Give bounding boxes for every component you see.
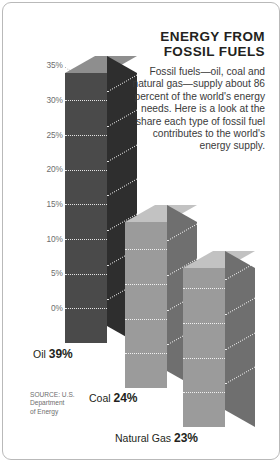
source-line-2: Department xyxy=(30,399,64,406)
bar-gridline xyxy=(65,204,107,205)
caption-value: 39% xyxy=(49,347,73,361)
caption-value: 24% xyxy=(114,391,138,405)
source-line-3: of Energy xyxy=(30,408,58,415)
caption-label: Oil xyxy=(33,348,49,360)
bar-gridline xyxy=(125,249,167,250)
bar-front-face xyxy=(65,73,107,343)
bar-gridline xyxy=(183,323,225,324)
bar-front-face xyxy=(125,222,167,388)
caption-value: 23% xyxy=(174,431,198,445)
bar-gridline xyxy=(65,308,107,309)
bar-caption-natural-gas: Natural Gas 23% xyxy=(115,431,198,445)
caption-label: Natural Gas xyxy=(115,432,174,444)
intro-paragraph: Fossil fuels—oil, coal and natural gas—s… xyxy=(131,66,265,153)
caption-label: Coal xyxy=(89,392,114,404)
bar-gridline xyxy=(183,288,225,289)
bar-gridline xyxy=(125,353,167,354)
bar-gridline xyxy=(65,239,107,240)
bar-caption-oil: Oil 39% xyxy=(33,347,73,361)
bar-gridline xyxy=(65,100,107,101)
title-line-2: FOSSIL FUELS xyxy=(164,44,265,59)
title-line-1: ENERGY FROM xyxy=(160,29,265,44)
headline-block: ENERGY FROM FOSSIL FUELS Fossil fuels—oi… xyxy=(131,29,265,153)
bar-gridline xyxy=(65,170,107,171)
page-title: ENERGY FROM FOSSIL FUELS xyxy=(131,29,265,59)
bar-gridline xyxy=(183,358,225,359)
bar-gridline xyxy=(183,392,225,393)
bar-gridline xyxy=(125,319,167,320)
bar-front-face xyxy=(183,268,225,427)
bar-gridline xyxy=(65,274,107,275)
bar-gridline xyxy=(65,135,107,136)
source-line-1: SOURCE: U.S. xyxy=(30,391,75,398)
bar-caption-coal: Coal 24% xyxy=(89,391,138,405)
bar-gridline xyxy=(125,284,167,285)
infographic-card: 0%5%10%15%20%25%30%35% ENERGY FROM FOSSI… xyxy=(2,2,280,460)
source-note: SOURCE: U.S. Department of Energy xyxy=(30,391,94,416)
